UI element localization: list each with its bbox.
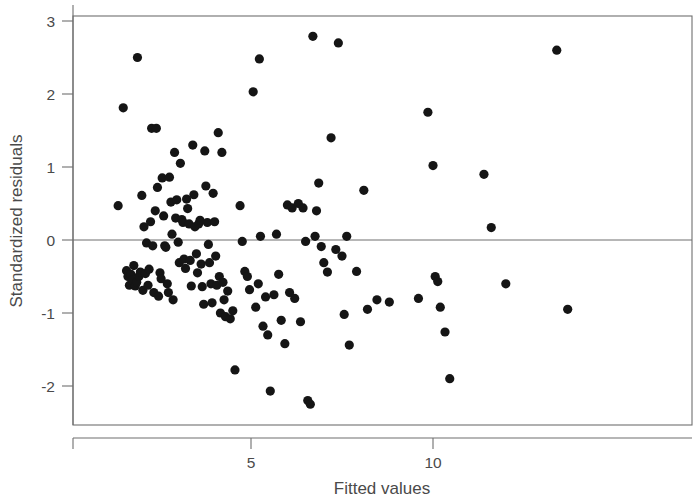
data-point <box>414 294 423 303</box>
data-point <box>256 232 265 241</box>
data-point <box>223 287 232 296</box>
data-point <box>201 181 210 190</box>
data-point <box>169 295 178 304</box>
data-point <box>235 201 244 210</box>
scatter-plot-figure: -2-10123 510 Standardized residuals Fitt… <box>0 0 698 502</box>
data-point <box>337 251 346 260</box>
data-point <box>280 339 289 348</box>
data-point <box>261 292 270 301</box>
data-point <box>296 317 305 326</box>
y-tick-label: 0 <box>46 232 55 249</box>
data-point <box>189 190 198 199</box>
y-axis-ticks: -2-10123 <box>41 13 73 395</box>
y-axis-label: Standardized residuals <box>7 135 26 308</box>
data-point <box>198 282 207 291</box>
data-point <box>217 148 226 157</box>
data-point <box>146 217 155 226</box>
plot-frame <box>73 16 692 425</box>
data-point <box>154 292 163 301</box>
data-point <box>501 279 510 288</box>
data-point <box>385 297 394 306</box>
data-point <box>228 306 237 315</box>
data-point <box>183 204 192 213</box>
data-point <box>428 161 437 170</box>
x-tick-label: 10 <box>424 454 442 471</box>
y-tick-label: 2 <box>46 86 55 103</box>
data-point <box>263 330 272 339</box>
x-axis-label: Fitted values <box>334 479 430 498</box>
data-point <box>163 279 172 288</box>
plot-canvas: -2-10123 510 Standardized residuals Fitt… <box>0 0 698 502</box>
data-point <box>352 267 361 276</box>
data-point <box>153 183 162 192</box>
data-point <box>207 298 216 307</box>
data-point <box>218 278 227 287</box>
data-point <box>298 203 307 212</box>
data-point <box>204 240 213 249</box>
y-tick-label: 1 <box>46 159 55 176</box>
data-point <box>161 243 170 252</box>
data-point <box>255 54 264 63</box>
data-point <box>129 261 138 270</box>
data-point <box>323 268 332 277</box>
data-point <box>152 124 161 133</box>
data-point <box>209 189 218 198</box>
data-point <box>165 173 174 182</box>
x-tick-label: 5 <box>247 454 256 471</box>
data-point <box>230 365 239 374</box>
data-point <box>174 238 183 247</box>
data-point <box>254 279 263 288</box>
data-point <box>301 237 310 246</box>
y-tick-label: -2 <box>41 378 55 395</box>
data-point <box>445 374 454 383</box>
data-point <box>119 103 128 112</box>
data-point <box>133 53 142 62</box>
data-point <box>363 305 372 314</box>
data-point <box>188 141 197 150</box>
data-point <box>314 178 323 187</box>
y-tick-label: 3 <box>46 13 55 30</box>
data-point <box>170 148 179 157</box>
data-point <box>214 128 223 137</box>
data-point <box>210 217 219 226</box>
data-point <box>479 170 488 179</box>
data-point <box>249 87 258 96</box>
data-point <box>181 264 190 273</box>
data-point <box>334 38 343 47</box>
data-point <box>226 314 235 323</box>
data-point <box>372 295 381 304</box>
data-point <box>319 258 328 267</box>
data-point <box>317 242 326 251</box>
data-point <box>148 241 157 250</box>
data-point <box>306 400 315 409</box>
data-point <box>310 232 319 241</box>
data-point <box>359 186 368 195</box>
y-tick-label: -1 <box>41 305 55 322</box>
data-point <box>436 303 445 312</box>
data-point <box>308 32 317 41</box>
data-point <box>326 133 335 142</box>
data-point <box>266 387 275 396</box>
data-point <box>340 310 349 319</box>
data-point <box>345 341 354 350</box>
data-point <box>193 268 202 277</box>
data-point <box>342 232 351 241</box>
data-point <box>219 295 228 304</box>
data-point <box>176 159 185 168</box>
data-point <box>272 230 281 239</box>
data-point <box>433 277 442 286</box>
data-point <box>211 251 220 260</box>
data-point <box>172 195 181 204</box>
data-point <box>143 281 152 290</box>
data-point <box>137 191 146 200</box>
data-point <box>159 211 168 220</box>
data-point <box>197 259 206 268</box>
data-point <box>552 46 561 55</box>
data-point <box>269 290 278 299</box>
data-point <box>563 305 572 314</box>
data-point <box>245 285 254 294</box>
data-point <box>440 327 449 336</box>
data-point <box>290 294 299 303</box>
data-point <box>277 316 286 325</box>
data-point <box>243 272 252 281</box>
